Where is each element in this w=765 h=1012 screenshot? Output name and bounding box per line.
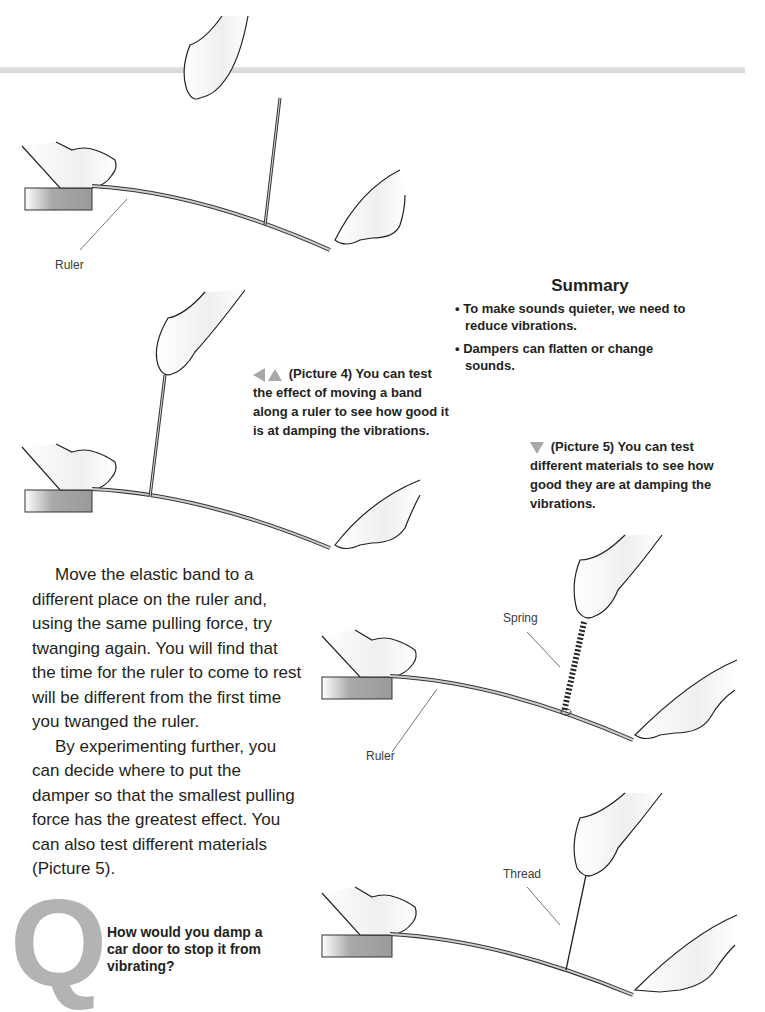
picture-4-caption: (Picture 4) You can test the effect of m… (253, 364, 453, 440)
body-paragraph: Move the elastic band to a different pla… (32, 563, 302, 735)
picture-5-caption-text: (Picture 5) You can test different mater… (530, 439, 714, 511)
summary-box: Summary To make sounds quieter, we need … (455, 276, 705, 380)
body-paragraph: By experimenting further, you can decide… (32, 735, 302, 882)
ruler-label-picture-3: Ruler (55, 258, 84, 272)
spring-label: Spring (503, 611, 538, 625)
picture-5-thread-illustration (322, 793, 737, 995)
picture-5-caption: (Picture 5) You can test different mater… (530, 437, 715, 513)
triangle-down-icon (530, 442, 544, 454)
picture-4-caption-text: (Picture 4) You can test the effect of m… (253, 366, 449, 438)
summary-item: Dampers can flatten or change sounds. (455, 340, 705, 374)
picture-3-illustration (22, 16, 405, 250)
body-text: Move the elastic band to a different pla… (32, 563, 302, 882)
triangle-up-icon (268, 369, 282, 381)
question-q-icon: Q (10, 880, 107, 1005)
summary-item: To make sounds quieter, we need to reduc… (455, 300, 705, 334)
summary-list: To make sounds quieter, we need to reduc… (455, 300, 705, 374)
picture-5-spring-illustration (322, 535, 737, 752)
summary-title: Summary (455, 276, 705, 296)
ruler-label-picture-5: Ruler (366, 749, 395, 763)
question-text: How would you damp a car door to stop it… (107, 924, 277, 975)
thread-label: Thread (503, 867, 541, 881)
triangle-left-icon (253, 368, 265, 382)
